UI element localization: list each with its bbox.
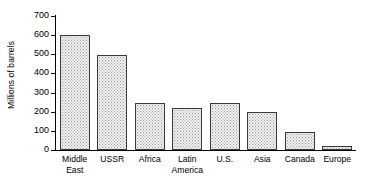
y-axis-tick-mark <box>51 93 56 94</box>
y-axis-tick-label: 0 <box>44 144 49 154</box>
x-axis-category-label: Europe <box>315 154 361 165</box>
bar <box>285 132 315 150</box>
bar <box>210 103 240 150</box>
y-axis-title-text: Millions of barrels <box>6 41 16 109</box>
y-axis-tick-mark <box>51 150 56 151</box>
y-axis-tick-label: 100 <box>34 125 49 135</box>
y-axis-tick-label: 300 <box>34 87 49 97</box>
y-axis-tick-label: 600 <box>34 29 49 39</box>
bar <box>322 146 352 150</box>
bar <box>172 108 202 150</box>
y-axis-tick-mark <box>51 35 56 36</box>
y-axis-tick-label: 200 <box>34 106 49 116</box>
y-axis-tick-mark <box>51 73 56 74</box>
bar <box>247 112 277 150</box>
y-axis-tick-label: 700 <box>34 10 49 20</box>
y-axis-tick-label: 400 <box>34 67 49 77</box>
y-axis-tick-mark <box>51 16 56 17</box>
bar-chart: Millions of barrels 01002003004005006007… <box>0 0 369 195</box>
y-axis-title: Millions of barrels <box>0 0 22 150</box>
y-axis-tick-mark <box>51 112 56 113</box>
y-axis-tick-label: 500 <box>34 48 49 58</box>
bar <box>97 55 127 150</box>
y-axis-tick-mark <box>51 54 56 55</box>
bar <box>60 35 90 150</box>
plot-area: 0100200300400500600700 <box>56 16 356 150</box>
x-axis-line <box>55 150 356 151</box>
bar <box>135 103 165 150</box>
y-axis-tick-mark <box>51 131 56 132</box>
